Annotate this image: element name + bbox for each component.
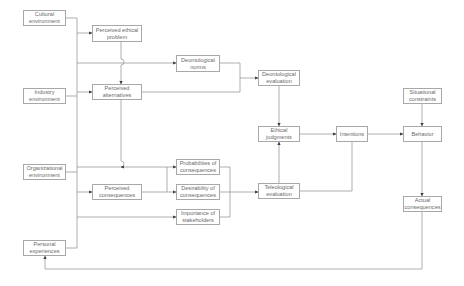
node-perceived-ethical-problem: Perceived ethical problem	[92, 25, 142, 42]
node-deontological-norms: Deontological norms	[176, 55, 220, 72]
node-industry-environment: Industry environment	[23, 88, 66, 104]
node-cultural-environment: Cultural environment	[23, 10, 66, 26]
node-ethical-judgments: Ethical judgments	[258, 126, 300, 142]
node-probabilities-of-consequences: Probabilities of consequences	[176, 159, 220, 175]
node-actual-consequences: Actual consequences	[403, 196, 442, 212]
node-importance-of-stakeholders: Importance of stakeholders	[176, 209, 220, 225]
node-deontological-evaluation: Deontological evaluation	[258, 70, 300, 86]
node-organizational-environment: Organizational environment	[23, 164, 66, 180]
node-desirability-of-consequences: Desirability of consequences	[176, 184, 220, 200]
node-perceived-alternatives: Perceived alternatives	[92, 84, 142, 100]
node-intentions: Intentions	[336, 126, 368, 142]
connector-lines	[0, 0, 464, 286]
node-personal-experiences: Personal experiences	[23, 240, 66, 256]
node-situational-constraints: Situational constraints	[403, 88, 442, 104]
node-behavior: Behavior	[403, 126, 442, 142]
node-teleological-evaluation: Teleological evaluation	[258, 183, 300, 199]
node-perceived-consequences: Perceived consequences	[92, 184, 142, 200]
